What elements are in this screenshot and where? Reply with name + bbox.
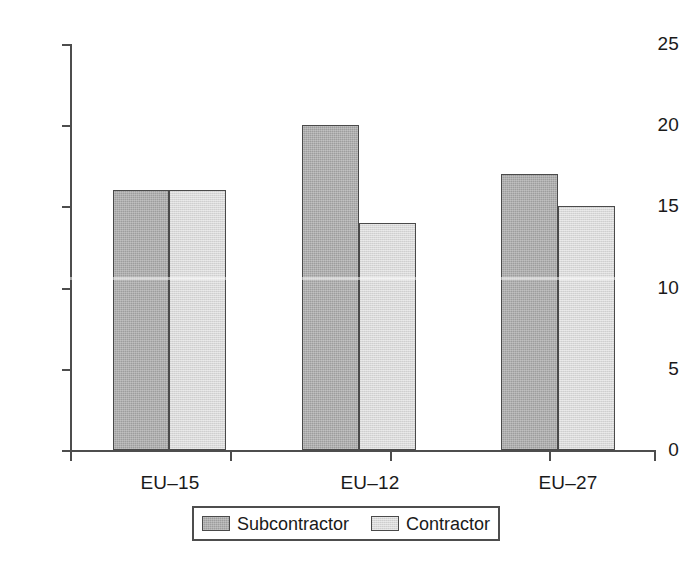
x-axis-tick-end	[654, 452, 656, 461]
plot-area	[70, 44, 655, 450]
bar-eu-27-contractor	[558, 206, 615, 450]
legend-swatch-contractor-icon	[371, 516, 399, 531]
x-axis-tick-1	[230, 452, 232, 461]
legend-label-subcontractor: Subcontractor	[237, 515, 349, 533]
x-axis-label-eu-12: EU–12	[290, 472, 450, 494]
bar-eu-15-contractor	[169, 190, 226, 450]
x-axis-tick-3	[549, 452, 551, 461]
bar-chart: 25 20 15 10 5 0 EU–15 EU–12 EU–27 Subcon…	[0, 0, 679, 576]
chart-legend: Subcontractor Contractor	[192, 506, 500, 541]
bar-eu-12-subcontractor	[302, 125, 359, 450]
x-axis-label-eu-15: EU–15	[90, 472, 250, 494]
x-axis-label-eu-27: EU–27	[488, 472, 648, 494]
bar-eu-27-subcontractor	[501, 174, 558, 450]
legend-label-contractor: Contractor	[406, 515, 490, 533]
legend-entry-contractor: Contractor	[371, 515, 490, 533]
legend-entry-subcontractor: Subcontractor	[202, 515, 349, 533]
legend-swatch-subcontractor-icon	[202, 516, 230, 531]
bar-eu-12-contractor	[359, 223, 416, 450]
x-axis-tick-2	[390, 452, 392, 461]
bar-eu-15-subcontractor	[113, 190, 169, 450]
x-axis-line	[70, 450, 656, 452]
x-axis-tick-0	[70, 452, 72, 461]
